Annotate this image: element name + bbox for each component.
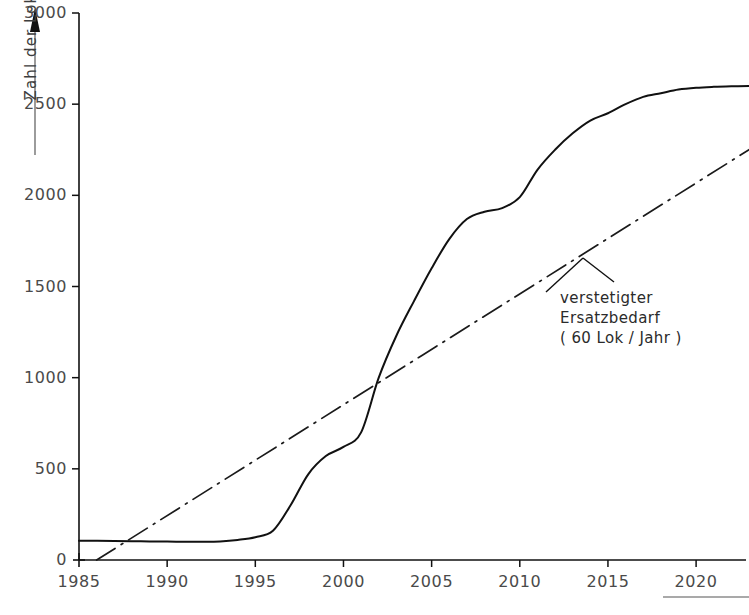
x-tick-label-2005: 2005 — [397, 572, 467, 591]
x-tick-label-1995: 1995 — [220, 572, 290, 591]
y-tick-label-3000: 3000 — [0, 3, 67, 22]
y-tick-label-500: 500 — [0, 459, 67, 478]
y-tick-label-1500: 1500 — [0, 277, 67, 296]
leader-line-segment-2 — [583, 258, 614, 282]
x-tick-label-1990: 1990 — [132, 572, 202, 591]
leader-line-segment-1 — [546, 258, 583, 292]
annotation-line-1: verstetigter — [560, 288, 682, 308]
x-tick-label-2015: 2015 — [573, 572, 643, 591]
annotation-line-2: Ersatzbedarf — [560, 308, 682, 328]
x-tick-label-2000: 2000 — [308, 572, 378, 591]
x-tick-label-2010: 2010 — [485, 572, 555, 591]
verstetigter-ersatzbedarf-annotation: verstetigter Ersatzbedarf ( 60 Lok / Jah… — [560, 288, 682, 348]
series-line-2 — [97, 150, 749, 560]
chart-canvas: Zahl der Lok 050010001500200025003000 19… — [0, 0, 749, 615]
x-tick-label-1985: 1985 — [44, 572, 114, 591]
x-tick-label-2020: 2020 — [661, 572, 731, 591]
y-tick-label-2000: 2000 — [0, 185, 67, 204]
y-tick-label-0: 0 — [0, 550, 67, 569]
y-tick-label-1000: 1000 — [0, 368, 67, 387]
y-tick-label-2500: 2500 — [0, 94, 67, 113]
annotation-line-3: ( 60 Lok / Jahr ) — [560, 328, 682, 348]
